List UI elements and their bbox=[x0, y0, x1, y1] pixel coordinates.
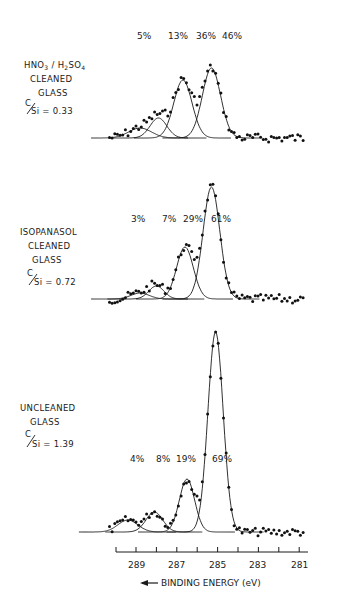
svg-text:4%: 4% bbox=[130, 454, 145, 464]
panel-1-title-line2: CLEANED bbox=[30, 74, 72, 84]
svg-text:46%: 46% bbox=[222, 31, 242, 41]
panel-3-percentages: 4% 8% 19% 69% bbox=[130, 454, 232, 464]
panel-2-title-line1: ISOPANASOL bbox=[20, 227, 77, 237]
panel-2-ratio: C Si = 0.72 bbox=[27, 268, 76, 287]
panel-2-percentages: 3% 7% 29% 61% bbox=[131, 214, 231, 224]
svg-text:5%: 5% bbox=[137, 31, 152, 41]
svg-text:Si = 1.39: Si = 1.39 bbox=[32, 439, 74, 449]
panel-2-title-line2: CLEANED bbox=[28, 241, 70, 251]
panel-2-title-line3: GLASS bbox=[32, 255, 62, 265]
x-axis-title: BINDING ENERGY (eV) bbox=[140, 578, 261, 588]
svg-text:3%: 3% bbox=[131, 214, 146, 224]
svg-text:C: C bbox=[25, 429, 31, 439]
panel-3-title-line2: GLASS bbox=[30, 417, 60, 427]
svg-text:287: 287 bbox=[168, 560, 185, 570]
panel-1-label: HNO3 / H2SO4 CLEANED GLASS C Si = 0.33 bbox=[24, 60, 85, 116]
data-points bbox=[108, 63, 305, 537]
xps-figure: HNO3 / H2SO4 CLEANED GLASS C Si = 0.33 I… bbox=[0, 0, 339, 601]
panel-3-title-line1: UNCLEANED bbox=[20, 403, 76, 413]
svg-text:8%: 8% bbox=[156, 454, 171, 464]
svg-text:C: C bbox=[27, 268, 33, 278]
svg-text:36%: 36% bbox=[196, 31, 216, 41]
svg-text:7%: 7% bbox=[162, 214, 177, 224]
svg-text:29%: 29% bbox=[183, 214, 203, 224]
svg-text:13%: 13% bbox=[168, 31, 188, 41]
panel-1-percentages: 5% 13% 36% 46% bbox=[137, 31, 242, 41]
x-axis: 289 287 285 283 281 BINDING ENERGY (eV) bbox=[116, 547, 308, 588]
panel-3-ratio: C Si = 1.39 bbox=[25, 429, 74, 449]
svg-text:BINDING ENERGY (eV): BINDING ENERGY (eV) bbox=[161, 578, 261, 588]
svg-text:19%: 19% bbox=[176, 454, 196, 464]
svg-text:Si = 0.33: Si = 0.33 bbox=[31, 106, 73, 116]
svg-text:69%: 69% bbox=[212, 454, 232, 464]
panel-1-ratio: C Si = 0.33 bbox=[25, 98, 73, 116]
svg-text:289: 289 bbox=[128, 560, 145, 570]
panel-1-title-line3: GLASS bbox=[38, 88, 68, 98]
panel-1-title-line1: HNO3 / H2SO4 bbox=[24, 60, 85, 71]
panel-3-label: UNCLEANED GLASS C Si = 1.39 bbox=[20, 403, 76, 449]
svg-text:283: 283 bbox=[249, 560, 266, 570]
svg-text:61%: 61% bbox=[211, 214, 231, 224]
svg-text:285: 285 bbox=[209, 560, 226, 570]
svg-text:Si = 0.72: Si = 0.72 bbox=[34, 277, 76, 287]
svg-text:281: 281 bbox=[291, 560, 308, 570]
panel-2-label: ISOPANASOL CLEANED GLASS C Si = 0.72 bbox=[20, 227, 77, 287]
